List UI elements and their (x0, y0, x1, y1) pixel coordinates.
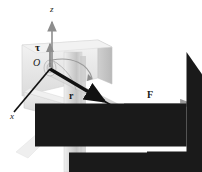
force-symbol: F (147, 89, 153, 100)
angle-label: 30.0° (133, 106, 152, 115)
axis-label-x: x (10, 112, 14, 121)
position-vector-label: r (69, 91, 73, 101)
figure-canvas (0, 0, 202, 172)
origin-label: O (33, 58, 40, 68)
torque-symbol: τ (35, 41, 40, 53)
torque-vector-label: τ (35, 42, 40, 53)
axis-label-z: z (50, 5, 54, 14)
torque-figure: z x y O τ r F 30.0° (0, 0, 202, 172)
axis-label-y: y (160, 130, 164, 139)
position-symbol: r (69, 90, 73, 101)
force-vector-label: F (147, 90, 153, 100)
